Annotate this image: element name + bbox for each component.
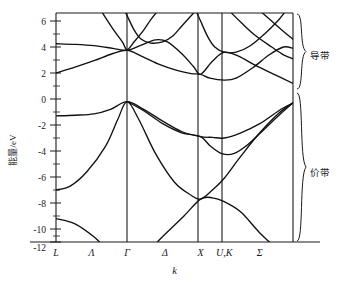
- x-tick-label: Σ: [256, 247, 263, 258]
- x-tick-label: Δ: [161, 247, 168, 258]
- band-curve: conduction band 5: [196, 11, 286, 53]
- band-curve: conduction band 1 (lowest): [56, 47, 293, 80]
- y-tick-label: 6: [41, 17, 46, 27]
- x-tick-label: L: [52, 247, 59, 258]
- valence-band-label: 价带: [310, 167, 330, 178]
- band-curves: valence band 1 (lowest)valence band 2val…: [56, 11, 293, 262]
- band-curve: conduction band 7: [260, 11, 293, 40]
- y-tick-label: 4: [41, 43, 46, 53]
- x-tick-label: Λ: [87, 247, 94, 258]
- x-axis-tick-labels: LΛΓΔXU,KΣ: [52, 247, 263, 258]
- band-structure-figure: 6 4 2 0 -2 -4 -6 -8 -10 -12 能量/eV valenc…: [0, 0, 350, 282]
- x-tick-label: U,K: [216, 247, 234, 258]
- band-curve: valence band 2: [56, 102, 293, 200]
- y-tick-label: -12: [33, 243, 46, 253]
- y-tick-label: -2: [38, 121, 46, 131]
- y-axis-tick-labels: 6 4 2 0 -2 -4 -6 -8 -10 -12: [33, 17, 46, 254]
- conduction-band-label: 导带: [310, 50, 330, 61]
- y-axis-title: 能量/eV: [7, 134, 18, 165]
- band-structure-plot: 6 4 2 0 -2 -4 -6 -8 -10 -12 能量/eV valenc…: [0, 0, 350, 282]
- conduction-band-brace: [297, 14, 306, 89]
- band-group-annotations: 导带价带: [297, 14, 330, 241]
- band-curve: valence band 3 (heavy hole): [56, 102, 293, 139]
- x-axis-title: k: [172, 265, 177, 276]
- y-tick-label: 2: [41, 69, 46, 79]
- y-tick-label: -10: [33, 225, 46, 235]
- y-tick-label: -4: [38, 147, 46, 157]
- valence-band-brace: [297, 93, 306, 241]
- band-curve: conduction band 4: [125, 11, 196, 44]
- band-curve: conduction band 3: [101, 11, 158, 50]
- y-tick-label: -6: [38, 173, 46, 183]
- x-tick-label: Γ: [123, 247, 130, 258]
- y-tick-label: -8: [38, 199, 46, 209]
- y-tick-label: 0: [41, 95, 46, 105]
- x-tick-label: X: [197, 247, 205, 258]
